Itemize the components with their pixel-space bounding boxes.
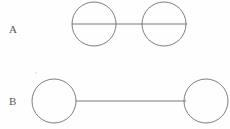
- row-b-node-right: [184, 79, 228, 123]
- figure-diagram: [0, 0, 230, 129]
- scan-speck-artifact: [35, 72, 37, 74]
- row-label-a: A: [9, 24, 17, 35]
- row-b-group: [32, 79, 228, 123]
- row-a-group: [72, 2, 187, 46]
- row-b-node-left: [32, 79, 76, 123]
- row-label-b: B: [9, 96, 16, 107]
- figure-canvas: A B: [0, 0, 230, 129]
